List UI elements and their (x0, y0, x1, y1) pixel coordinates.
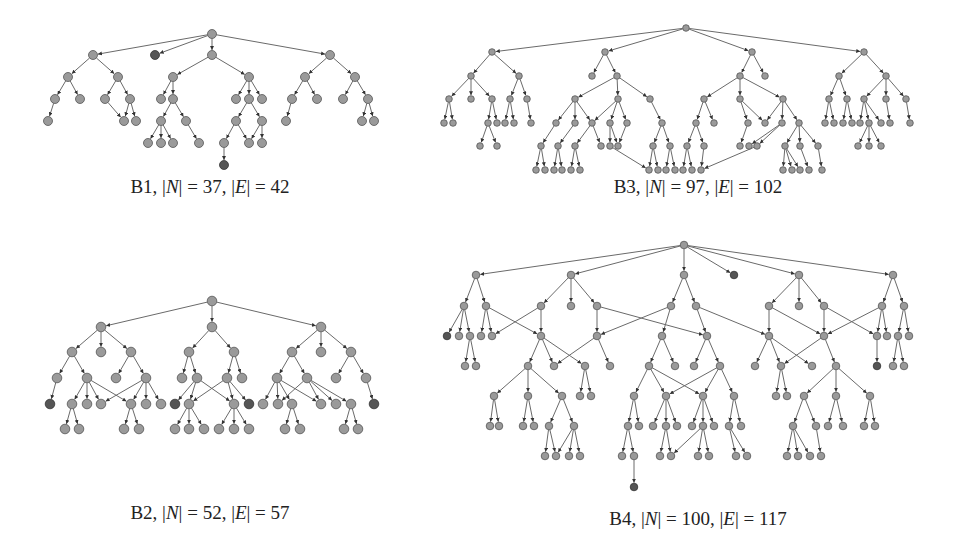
graph-edge (688, 149, 692, 166)
graph-node (195, 139, 204, 148)
graph-node (157, 139, 166, 148)
graph-edge (251, 103, 259, 117)
graph-node (528, 120, 535, 127)
caption-n-value: 37 (203, 176, 222, 197)
graph-edge (530, 339, 540, 362)
graph-edge (239, 103, 247, 117)
graph-node (182, 117, 191, 126)
graph-node (489, 49, 496, 56)
graph-edge (563, 400, 572, 422)
graph-node (680, 167, 687, 174)
graph-edge (280, 356, 290, 373)
graph-edge (191, 408, 201, 424)
caption-n-value: 52 (203, 502, 222, 523)
graph-edge (163, 81, 170, 95)
graph-edge (235, 357, 240, 373)
graph-node (516, 73, 523, 80)
graph-node (796, 120, 803, 127)
graph-edge (674, 429, 700, 453)
graph-node (871, 422, 879, 430)
graph-node (313, 95, 322, 104)
graph-edge (131, 103, 135, 116)
graph-node (699, 392, 707, 400)
graph-edge (188, 125, 196, 139)
graph-node (817, 452, 825, 460)
graph-edge (524, 400, 528, 422)
graph-node (795, 271, 803, 279)
graph-edge (883, 279, 891, 302)
graph-node (836, 73, 843, 80)
graph-node (832, 362, 840, 370)
graph-node (67, 347, 77, 357)
graph-node (693, 120, 700, 127)
graph-edge (743, 78, 780, 98)
graph-edge (578, 78, 614, 98)
graph-node (866, 120, 873, 127)
graph-node (694, 452, 702, 460)
graph-node (689, 167, 696, 174)
graph-edge (635, 400, 639, 422)
graph-node (905, 332, 913, 340)
graph-node (568, 167, 575, 174)
graph-edge (573, 278, 594, 303)
graph-node (82, 373, 92, 383)
graph-edge (772, 308, 820, 334)
caption-e-value: 102 (754, 176, 783, 197)
graph-node (126, 347, 136, 357)
graph-node (288, 95, 297, 104)
graph-edge (629, 400, 633, 422)
graph-edge (495, 400, 499, 422)
graph-edge (688, 126, 694, 142)
graph-node (316, 399, 326, 409)
graph-node (701, 96, 708, 103)
graph-node (114, 73, 123, 82)
figure-caption-b3: B3, |N| = 97, |E| = 102 (430, 176, 966, 198)
graph-node (96, 322, 106, 332)
graph-edge (688, 246, 889, 275)
graph-node (126, 399, 136, 409)
graph-node (331, 399, 341, 409)
graph-edge (480, 246, 680, 275)
caption-e-value: 57 (271, 502, 290, 523)
graph-node (533, 167, 540, 174)
graph-node (101, 95, 110, 104)
graph-node (878, 143, 885, 150)
graph-node (883, 332, 891, 340)
graph-node (184, 399, 194, 409)
graph-node (331, 373, 341, 383)
graph-edge (848, 102, 852, 119)
graph-node (316, 347, 326, 357)
graph-edge (801, 126, 815, 144)
graph-edge (160, 36, 208, 54)
graph-edge (489, 308, 537, 334)
graph-edge (491, 400, 494, 422)
graph-edge (266, 382, 275, 399)
graph-edge (559, 149, 562, 166)
graph-edge (546, 430, 549, 452)
graph-edge (91, 380, 126, 401)
graph-node (144, 139, 153, 148)
graph-edge (905, 310, 909, 332)
graph-edge (466, 279, 475, 302)
caption-n-value: 100 (681, 508, 710, 529)
graph-node (301, 73, 310, 82)
graph-node (272, 373, 282, 383)
graph-edge (119, 356, 129, 373)
graph-node (537, 302, 545, 310)
graph-edge (581, 370, 585, 392)
graph-edge (163, 125, 170, 139)
graph-node (524, 96, 531, 103)
graph-edge (357, 81, 365, 95)
graph-node (111, 373, 121, 383)
graph-edge (865, 400, 869, 422)
graph-node (76, 95, 85, 104)
caption-e-label: E (235, 176, 247, 197)
graph-node (820, 302, 828, 310)
graph-edge (842, 54, 862, 73)
graph-edge (593, 126, 599, 142)
graph-node (624, 120, 631, 127)
graph-node (667, 452, 675, 460)
graph-edge (193, 331, 209, 349)
graph-edge (907, 102, 910, 119)
graph-node (502, 120, 509, 127)
